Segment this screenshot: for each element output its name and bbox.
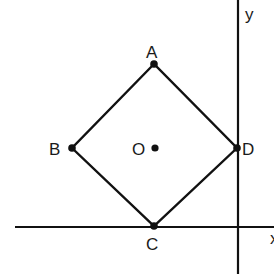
x-axis-label: x (270, 229, 274, 248)
label-c: C (146, 235, 158, 254)
label-b: B (49, 140, 60, 159)
label-a: A (146, 43, 158, 62)
point-d (233, 144, 241, 152)
label-d: D (242, 140, 254, 159)
point-b (68, 144, 76, 152)
point-c (150, 222, 158, 230)
label-o: O (132, 140, 145, 159)
coordinate-diagram: y x A B C D O (0, 0, 274, 274)
y-axis-label: y (245, 5, 254, 24)
point-o (151, 144, 158, 151)
